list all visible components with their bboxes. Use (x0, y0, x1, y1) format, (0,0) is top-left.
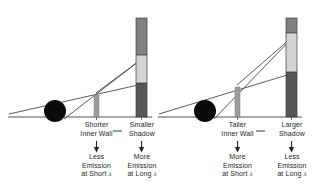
right-consequence-long-line2: Emission (262, 162, 315, 171)
right-consequence-short-line2: Emission (207, 162, 268, 171)
right-consequence-short-text: at Short (222, 170, 247, 177)
lambda-symbol: λ (303, 170, 306, 178)
left-arrow-long-lambda (139, 141, 144, 153)
right-consequence-short-lambda: More Emission at Short λ (207, 153, 268, 179)
right-shadow-label-line1: Larger (262, 121, 315, 130)
right-bar-light-segment (286, 33, 297, 72)
right-consequence-long-lambda: Less Emission at Long λ (262, 153, 315, 179)
right-consequence-short-line3: at Short λ (207, 170, 268, 179)
left-shadow-label-line2: Shadow (112, 130, 172, 139)
left-bar-upper-segment (136, 18, 147, 55)
right-shadow-label: Larger Shadow (262, 121, 315, 138)
left-consequence-long-line2: Emission (112, 162, 172, 171)
left-shadow-label-line1: Smaller (112, 121, 172, 130)
left-consequence-short-text: at Short (81, 170, 106, 177)
left-shadow-ray-lower (64, 55, 147, 119)
right-arrow-short-lambda (235, 141, 240, 153)
right-inner-wall-label-line2: Inner Wall (207, 130, 268, 139)
left-sphere-icon (44, 100, 66, 122)
left-consequence-long-line1: More (112, 153, 172, 162)
left-bar-light-segment (136, 55, 147, 83)
left-grazing-ray (9, 83, 147, 114)
left-arrow-short-lambda (94, 141, 99, 153)
figure-container: Shorter Inner Wall Smaller Shadow Less E… (0, 0, 315, 188)
left-inner-wall (94, 95, 99, 117)
right-consequence-long-line3: at Long λ (262, 170, 315, 179)
lambda-symbol: λ (250, 170, 253, 178)
right-inner-wall-label: Taller Inner Wall (207, 121, 268, 138)
left-consequence-long-lambda: More Emission at Long λ (112, 153, 172, 179)
right-arrow-long-lambda (289, 141, 294, 153)
right-inner-wall (235, 87, 240, 117)
right-bar-upper-segment (286, 18, 297, 33)
right-shadow-label-line2: Shadow (262, 130, 315, 139)
right-sphere-icon (194, 100, 216, 122)
lambda-symbol: λ (153, 170, 156, 178)
right-consequence-long-line1: Less (262, 153, 315, 162)
left-consequence-long-line3: at Long λ (112, 170, 172, 179)
left-shadow-label: Smaller Shadow (112, 121, 172, 138)
left-bar-shadow-segment (136, 83, 147, 117)
right-inner-wall-label-line1: Taller (207, 121, 268, 130)
right-consequence-long-text: at Long (277, 170, 301, 177)
left-consequence-long-text: at Long (127, 170, 151, 177)
right-grazing-ray (159, 72, 297, 114)
right-bar-shadow-segment (286, 72, 297, 117)
right-consequence-short-line1: More (207, 153, 268, 162)
